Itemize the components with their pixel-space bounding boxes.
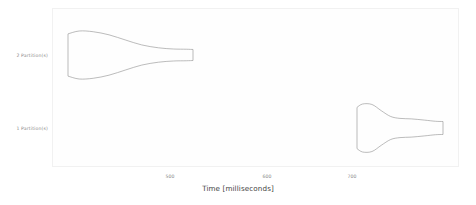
violin-plot-figure: 2 Partition(s) 1 Partition(s) 500 600 70… — [0, 0, 476, 205]
x-tick-label-500: 500 — [165, 174, 174, 179]
plot-area — [52, 8, 459, 167]
x-tick-label-700: 700 — [347, 174, 356, 179]
x-tick-label-600: 600 — [262, 174, 271, 179]
x-axis-title: Time [milliseconds] — [0, 184, 476, 193]
y-axis-tick-labels: 2 Partition(s) 1 Partition(s) — [0, 0, 48, 205]
y-tick-label-2-partitions: 2 Partition(s) — [16, 53, 48, 58]
y-tick-label-1-partition: 1 Partition(s) — [16, 126, 48, 131]
